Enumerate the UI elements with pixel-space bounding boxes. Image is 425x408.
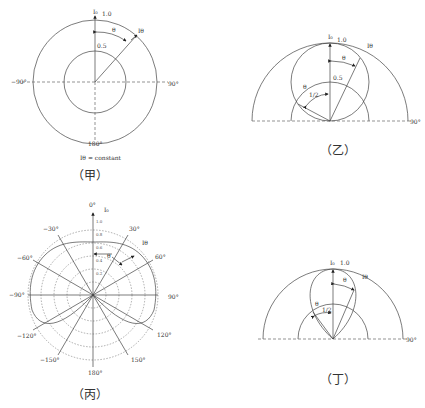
itheta-arrow bbox=[131, 35, 137, 40]
yi-itheta-label: Iθ bbox=[367, 42, 373, 49]
ding-theta-label: θ bbox=[343, 276, 347, 283]
bing-scale-0.4: 0.4 bbox=[96, 258, 103, 263]
half-ray bbox=[298, 104, 330, 121]
ding-caption: （丁） bbox=[320, 373, 356, 387]
diagram-ding bbox=[258, 269, 408, 339]
bing-scale-0.2: 0.2 bbox=[96, 271, 103, 276]
ding-half-label: 1/2 bbox=[322, 306, 332, 313]
bing-top-angle: 0° bbox=[89, 201, 96, 208]
itheta-ray bbox=[333, 290, 354, 339]
yi-inner-value: 0.5 bbox=[333, 74, 343, 81]
half-ray bbox=[313, 312, 333, 339]
bing-angle-60: 60° bbox=[155, 253, 166, 260]
bing-angle-30: 30° bbox=[129, 225, 140, 232]
ding-outer-value: 1.0 bbox=[340, 259, 350, 266]
bing-angle-90: 90° bbox=[168, 293, 179, 300]
bing-angle-180: 180° bbox=[88, 369, 102, 376]
yi-right-angle: 90° bbox=[410, 118, 421, 125]
jia-itheta-label: Iθ bbox=[138, 27, 144, 34]
jia-inner-value: 0.5 bbox=[97, 42, 107, 49]
bing-scale-1.0: 1.0 bbox=[96, 219, 103, 224]
jia-caption: （甲） bbox=[72, 169, 108, 183]
bing-itheta-label: Iθ bbox=[142, 239, 148, 246]
jia-bottom-angle: 180° bbox=[88, 140, 102, 147]
bing-angle-m30: −30° bbox=[43, 225, 59, 232]
bing-i0-label: I₀ bbox=[104, 206, 109, 213]
bing-angle-m90: −90° bbox=[9, 291, 25, 298]
bing-angle-120: 120° bbox=[157, 331, 171, 338]
ding-itheta-label: Iθ bbox=[362, 273, 368, 280]
bing-angle-m120: −120° bbox=[17, 332, 36, 339]
jia-i0-label: I₀ bbox=[93, 8, 98, 15]
jia-theta-label: θ bbox=[112, 26, 116, 33]
jia-note: Iθ = constant bbox=[80, 154, 122, 161]
yi-outer-value: 1.0 bbox=[337, 36, 347, 43]
jia-left-angle: −90° bbox=[11, 78, 27, 85]
yi-theta-label-2: θ bbox=[303, 83, 307, 90]
diagram-jia bbox=[22, 16, 168, 144]
theta-arc bbox=[334, 284, 354, 290]
bing-angle-m150: −150° bbox=[40, 356, 59, 363]
half-theta-arc bbox=[314, 313, 331, 316]
bing-scale-0.8: 0.8 bbox=[96, 232, 103, 237]
yi-half-label: 1/2 bbox=[309, 91, 319, 98]
theta-arc bbox=[96, 32, 126, 41]
theta-arc bbox=[331, 61, 355, 66]
theta-arrow-right bbox=[112, 257, 122, 265]
diagram-bing bbox=[28, 213, 158, 367]
bing-theta-label: θ bbox=[107, 252, 111, 259]
ding-right-angle: 90° bbox=[406, 336, 417, 343]
bing-angle-150: 150° bbox=[131, 356, 145, 363]
yi-caption: （乙） bbox=[320, 144, 356, 158]
ding-theta-label-2: θ bbox=[315, 300, 319, 307]
bing-angle-m60: −60° bbox=[17, 254, 33, 261]
yi-theta-label: θ bbox=[342, 54, 346, 61]
polar-diagrams: I₀ 1.0 θ Iθ 0.5 −90° 90° 180° Iθ = const… bbox=[0, 0, 425, 408]
jia-right-angle: 90° bbox=[168, 80, 179, 87]
jia-outer-value: 1.0 bbox=[102, 10, 112, 17]
bing-scale-0.6: 0.6 bbox=[96, 245, 103, 250]
yi-i0-label: I₀ bbox=[328, 33, 333, 40]
diagram-yi bbox=[252, 43, 410, 121]
ding-i0-label: I₀ bbox=[330, 259, 335, 266]
bing-caption: （丙） bbox=[72, 388, 108, 402]
